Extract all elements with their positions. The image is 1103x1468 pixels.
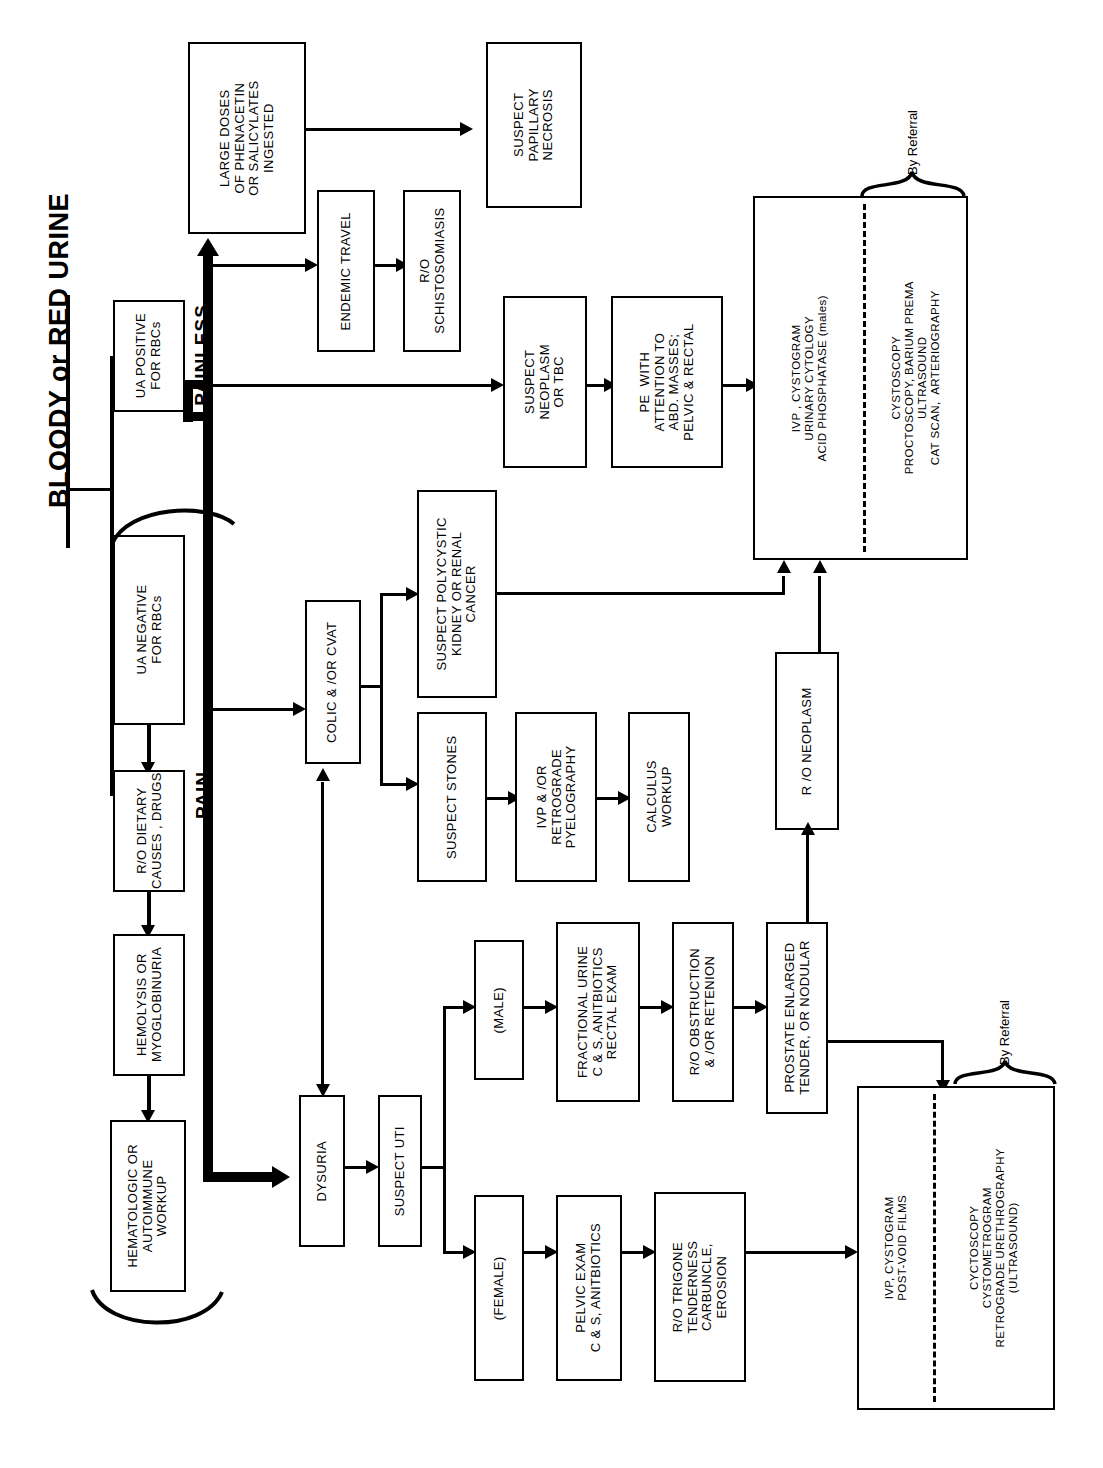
- prostate-to-roneoplasm-arrow: [801, 822, 815, 835]
- node-hematologic-label: HEMATOLOGIC OR AUTOIMMUNE WORKUP: [126, 1144, 170, 1268]
- dysuria-colic-arrow-down: [316, 1084, 330, 1097]
- node-male-label: (MALE): [492, 987, 507, 1033]
- trunk-to-dysuria-arrow: [272, 1166, 290, 1188]
- large-doses-to-papillary-line: [306, 128, 464, 131]
- node-female[interactable]: (FEMALE): [474, 1195, 524, 1381]
- trunk-to-large-doses-arrow: [197, 238, 219, 256]
- node-suspect-polycystic[interactable]: SUSPECT POLYCYSTIC KIDNEY OR RENAL CANCE…: [417, 490, 497, 698]
- node-pelvic-exam-label: PELVIC EXAM C & S, ANITBIOTICS: [574, 1223, 603, 1352]
- bracket-arc-top: [108, 500, 238, 546]
- node-ivp-retrograde[interactable]: IVP & /OR RETROGRADE PYELOGRAPHY: [515, 712, 597, 882]
- node-endemic-travel-label: ENDEMIC TRAVEL: [339, 212, 354, 331]
- node-suspect-neoplasm-tbc[interactable]: SUSPECT NEOPLASM OR TBC: [503, 296, 587, 468]
- node-female-label: (FEMALE): [492, 1256, 507, 1320]
- polycystic-to-ivp-arrow: [777, 560, 791, 573]
- title-underline: [66, 295, 70, 548]
- node-suspect-uti-label: SUSPECT UTI: [393, 1126, 408, 1216]
- prostate-to-bottomivp-line: [828, 1040, 944, 1043]
- node-ivp-cystogram-bottom[interactable]: IVP, CYSTOGRAM POST-VOID FILMS CYCTOSCOP…: [857, 1086, 1055, 1410]
- node-suspect-stones-label: SUSPECT STONES: [445, 735, 460, 859]
- node-large-doses[interactable]: LARGE DOSES OF PHENACETIN OR SALICYLATES…: [188, 42, 306, 234]
- node-hemolysis[interactable]: HEMOLYSIS OR MYOGLOBINURIA: [113, 934, 185, 1076]
- node-suspect-uti[interactable]: SUSPECT UTI: [378, 1095, 422, 1247]
- node-ro-dietary-label: R/O DIETARY CAUSES , DRUGS: [134, 773, 163, 890]
- colic-split-vertical: [380, 593, 383, 783]
- node-ro-neoplasm-label: R /O NEOPLASM: [800, 687, 815, 795]
- node-schistosomiasis-label: R/O SCHISTOSOMIASIS: [417, 208, 446, 334]
- node-ivp-cystogram-main-left-label: IVP , CYSTOGRAM URINARY CYTOLOGY ACID PH…: [790, 295, 829, 461]
- node-ivp-retrograde-label: IVP & /OR RETROGRADE PYELOGRAPHY: [534, 746, 578, 849]
- node-ua-positive-label: UA POSITIVE FOR RBCs: [134, 313, 163, 398]
- root-stem: [70, 488, 112, 491]
- node-colic-cvat-label: COLIC & /OR CVAT: [326, 621, 341, 743]
- node-fractional-urine[interactable]: FRACTIONAL URINE C & S, ANITBIOTICS RECT…: [556, 922, 640, 1102]
- branch-label-pain: PAIN: [178, 750, 228, 840]
- node-ivp-bottom-right-label: CYCTOSCOPY CYSTOMETROGRAM RETROGRADE URE…: [968, 1148, 1020, 1347]
- node-ivp-cystogram-main[interactable]: IVP , CYSTOGRAM URINARY CYTOLOGY ACID PH…: [753, 196, 968, 560]
- node-ro-obstruction-label: R/O OBSTRUCTION & /OR RETENION: [688, 948, 717, 1075]
- node-papillary-necrosis[interactable]: SUSPECT PAPILLARY NECROSIS: [486, 42, 582, 208]
- node-papillary-necrosis-label: SUSPECT PAPILLARY NECROSIS: [512, 88, 556, 161]
- polycystic-to-ivp-riser: [782, 576, 785, 594]
- node-endemic-travel[interactable]: ENDEMIC TRAVEL: [317, 190, 375, 352]
- node-calculus-workup[interactable]: CALCULUS WORKUP: [628, 712, 690, 882]
- painless-to-neoplasm-line: [213, 384, 495, 387]
- branch-label-painless: PAINLESS: [172, 300, 232, 410]
- uti-split-vertical: [443, 1006, 446, 1254]
- page-title-text: BLOODY or RED URINE: [45, 192, 76, 507]
- node-dysuria[interactable]: DYSURIA: [299, 1095, 345, 1247]
- dysuria-colic-double-line: [321, 782, 324, 1092]
- node-suspect-polycystic-label: SUSPECT POLYCYSTIC KIDNEY OR RENAL CANCE…: [435, 517, 479, 670]
- painless-to-endemic-line: [213, 264, 309, 267]
- dysuria-colic-arrow-up: [316, 768, 330, 781]
- roneoplasm-to-ivp-line: [818, 576, 821, 654]
- pain-to-colic-line: [213, 708, 297, 711]
- node-male[interactable]: (MALE): [474, 940, 524, 1080]
- node-hematologic[interactable]: HEMATOLOGIC OR AUTOIMMUNE WORKUP: [110, 1120, 186, 1292]
- node-colic-cvat[interactable]: COLIC & /OR CVAT: [305, 600, 361, 764]
- node-ivp-bottom-left-label: IVP, CYSTOGRAM POST-VOID FILMS: [883, 1195, 909, 1301]
- node-pe-with-attention[interactable]: PE WITH ATTENTION TO ABD. MASSES; PELVIC…: [611, 296, 723, 468]
- trunk-bottom-elbow: [203, 1172, 277, 1182]
- polycystic-to-ivp-line: [497, 592, 785, 595]
- node-ua-negative[interactable]: UA NEGATIVE FOR RBCs: [113, 535, 185, 725]
- roneoplasm-to-ivp-arrow: [813, 560, 827, 573]
- bracket-arc-bottom: [88, 1286, 228, 1340]
- trigone-to-bottomivp-line: [746, 1251, 850, 1254]
- node-suspect-neoplasm-tbc-label: SUSPECT NEOPLASM OR TBC: [523, 344, 567, 419]
- node-ro-obstruction[interactable]: R/O OBSTRUCTION & /OR RETENION: [672, 922, 734, 1102]
- node-calculus-workup-label: CALCULUS WORKUP: [644, 761, 673, 834]
- flowchart-canvas: BLOODY or RED URINE UA POSITIVE FOR RBCs…: [0, 0, 1103, 1468]
- large-doses-to-papillary-arrow: [460, 122, 473, 136]
- referral-label-bottom: By Referral: [970, 1010, 1040, 1054]
- node-dysuria-label: DYSURIA: [315, 1141, 330, 1202]
- node-ua-negative-label: UA NEGATIVE FOR RBCs: [134, 585, 163, 675]
- node-pelvic-exam[interactable]: PELVIC EXAM C & S, ANITBIOTICS: [556, 1195, 622, 1381]
- node-fractional-urine-label: FRACTIONAL URINE C & S, ANITBIOTICS RECT…: [576, 946, 620, 1078]
- node-schistosomiasis[interactable]: R/O SCHISTOSOMIASIS: [403, 190, 461, 352]
- node-prostate-label: PROSTATE ENLARGED TENDER, OR NODULAR: [782, 941, 811, 1096]
- node-large-doses-label: LARGE DOSES OF PHENACETIN OR SALICYLATES…: [218, 80, 276, 195]
- node-prostate[interactable]: PROSTATE ENLARGED TENDER, OR NODULAR: [766, 922, 828, 1114]
- node-ro-trigone-label: R/O TRIGONE TENDERNESS CARBUNCLE, EROSIO…: [671, 1241, 729, 1334]
- node-ivp-cystogram-main-right-label: CYSTOSCOPY PROCTOSCOPY, BARIUM PREMA ULT…: [890, 282, 942, 475]
- node-hemolysis-label: HEMOLYSIS OR MYOGLOBINURIA: [134, 948, 163, 1063]
- node-suspect-stones[interactable]: SUSPECT STONES: [417, 712, 487, 882]
- node-pe-with-attention-label: PE WITH ATTENTION TO ABD. MASSES; PELVIC…: [638, 323, 696, 441]
- node-ro-dietary[interactable]: R/O DIETARY CAUSES , DRUGS: [113, 770, 185, 892]
- node-ro-neoplasm[interactable]: R /O NEOPLASM: [775, 652, 839, 830]
- node-ro-trigone[interactable]: R/O TRIGONE TENDERNESS CARBUNCLE, EROSIO…: [654, 1192, 746, 1382]
- referral-label-top: By Referral: [878, 120, 948, 164]
